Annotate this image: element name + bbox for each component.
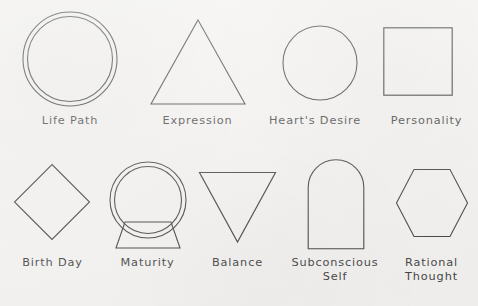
diagram-item-subconscious-self: Subconscious Self [285, 158, 385, 293]
double-circle-on-trapezoid-shape [108, 158, 188, 250]
triangle-up-shape [149, 18, 247, 107]
diagram-item-maturity: Maturity [105, 158, 190, 293]
diagram-label-rational-thought: Rational Thought [385, 256, 478, 284]
diagram-label-expression: Expression [140, 114, 255, 128]
double-circle-shape [21, 10, 119, 108]
diagram-item-rational-thought: Rational Thought [385, 158, 478, 293]
diagram-item-hearts-desire: Heart's Desire [255, 10, 375, 135]
diagram-label-personality: Personality [375, 114, 478, 128]
diagram-label-life-path: Life Path [0, 114, 140, 128]
arch-shape [307, 158, 365, 250]
triangle-down-shape [198, 171, 277, 244]
diagram-label-balance: Balance [190, 256, 285, 270]
diagram-label-maturity: Maturity [105, 256, 190, 270]
diagram-item-personality: Personality [375, 10, 478, 135]
circle-shape [282, 25, 358, 101]
square-shape [383, 27, 453, 96]
diagram-label-hearts-desire: Heart's Desire [255, 114, 375, 128]
diamond-shape [13, 163, 91, 241]
diagram-label-birth-day: Birth Day [0, 256, 105, 270]
diagram-item-balance: Balance [190, 158, 285, 293]
diagram-label-subconscious-self: Subconscious Self [285, 256, 385, 284]
diagram-item-expression: Expression [140, 10, 255, 135]
diagram-item-life-path: Life Path [0, 10, 140, 135]
numerology-shapes-diagram: Life Path Expression Heart's Desire Pers… [0, 0, 478, 306]
hexagon-shape [395, 168, 469, 238]
diagram-item-birth-day: Birth Day [0, 158, 105, 293]
